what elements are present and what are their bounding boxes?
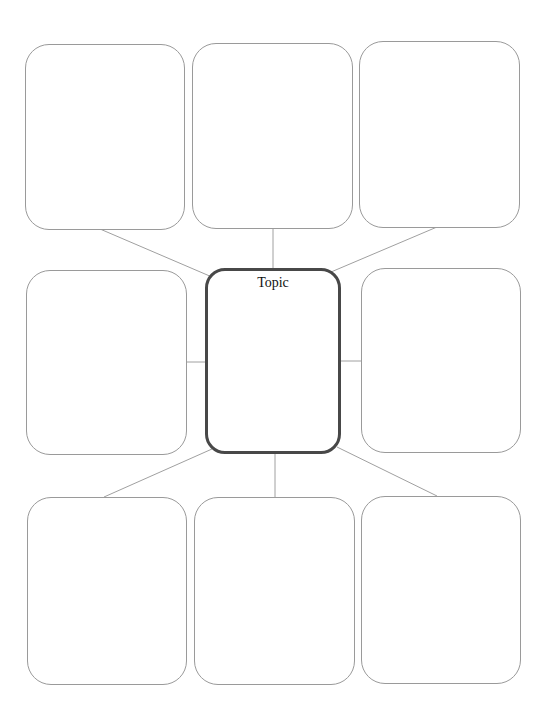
box-top-left[interactable] <box>25 44 185 230</box>
topic-label: Topic <box>208 275 338 291</box>
box-middle-right[interactable] <box>361 268 521 453</box>
connector-bottom-left <box>104 449 212 497</box>
box-bottom-middle[interactable] <box>194 497 355 685</box>
connector-top-right <box>331 227 437 272</box>
box-bottom-right[interactable] <box>361 496 521 684</box>
box-top-middle[interactable] <box>192 43 353 229</box>
box-bottom-left[interactable] <box>27 497 187 685</box>
concept-map-canvas: Topic <box>0 0 547 725</box>
box-middle-left[interactable] <box>26 270 187 455</box>
connector-bottom-right <box>337 447 437 496</box>
box-top-right[interactable] <box>359 41 520 228</box>
topic-box[interactable]: Topic <box>205 268 341 454</box>
